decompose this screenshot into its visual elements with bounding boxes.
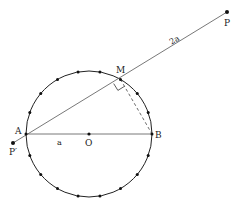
secant-line-p-prime-to-p [13, 12, 227, 143]
label-p: P [224, 18, 230, 28]
label-segment-a: a [57, 138, 62, 147]
label-a: A [14, 126, 22, 136]
circle-dot [25, 133, 28, 136]
circle-dot [136, 92, 139, 95]
circle-dot [28, 154, 31, 157]
circle-dot [28, 111, 31, 114]
circle-dot [98, 195, 101, 198]
circle-dot [136, 173, 139, 176]
circle-dot [147, 111, 150, 114]
circle-dot [98, 70, 101, 73]
circle-dot [39, 173, 42, 176]
label-segment-2a: 2a [168, 34, 181, 47]
circle-dot [119, 78, 122, 81]
center-point-o [87, 132, 90, 135]
label-b: B [155, 130, 162, 140]
label-o: O [85, 138, 92, 148]
circle-dot [151, 133, 154, 136]
circle-dot [56, 78, 59, 81]
label-m: M [116, 65, 125, 75]
circle-dot [147, 154, 150, 157]
point-p [225, 10, 229, 14]
circle-dot [39, 92, 42, 95]
label-p-prime: P′ [9, 147, 17, 157]
point-p-prime [11, 141, 15, 145]
circle-dot [77, 70, 80, 73]
dashed-segment-mb [121, 79, 153, 134]
circle-dot [56, 187, 59, 190]
circle-dot [77, 195, 80, 198]
geometry-diagram: P M A B O P′ a 2a [0, 0, 241, 211]
circle-dot [119, 187, 122, 190]
